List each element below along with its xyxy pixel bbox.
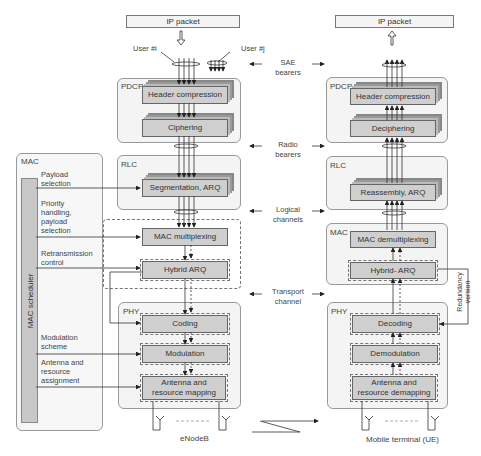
connector-lines <box>0 0 481 456</box>
